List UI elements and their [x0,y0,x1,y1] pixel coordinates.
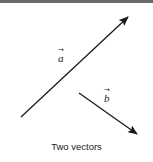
vector-diagram [0,0,153,162]
figure-caption: Two vectors [0,141,153,152]
vector-a-arrow [21,17,128,117]
vector-a-name: a [58,52,64,64]
vector-b-name: b [104,92,110,104]
